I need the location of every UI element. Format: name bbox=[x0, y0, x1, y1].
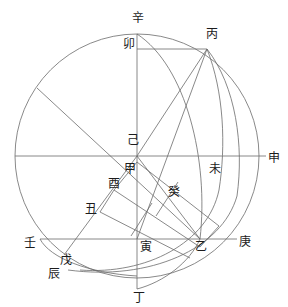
label-wu: 戊 bbox=[60, 254, 72, 266]
band2-cap-left bbox=[100, 190, 114, 212]
arc-middle bbox=[80, 49, 223, 271]
diagram-canvas: 辛 卯 丙 己 甲 酉 丑 癸 未 申 壬 戊 辰 寅 乙 庚 丁 bbox=[0, 0, 288, 307]
label-geng: 庚 bbox=[239, 236, 251, 248]
label-mao: 卯 bbox=[123, 38, 135, 50]
band-edge-lower bbox=[114, 190, 200, 247]
label-xin: 辛 bbox=[132, 12, 144, 24]
label-ji: 己 bbox=[127, 134, 139, 146]
label-yin: 寅 bbox=[140, 241, 152, 253]
label-yi: 乙 bbox=[195, 241, 207, 253]
label-gui: 癸 bbox=[168, 186, 180, 198]
label-chen: 辰 bbox=[48, 268, 60, 280]
label-wei: 未 bbox=[209, 163, 221, 175]
label-bing: 丙 bbox=[206, 28, 218, 40]
label-you: 酉 bbox=[108, 178, 120, 190]
label-ding: 丁 bbox=[133, 292, 145, 304]
label-chou: 丑 bbox=[85, 203, 97, 215]
label-jia: 甲 bbox=[124, 163, 136, 175]
label-shen: 申 bbox=[268, 152, 280, 164]
oblique-diameter-line bbox=[37, 88, 200, 239]
label-ren: 壬 bbox=[24, 237, 36, 249]
chord-bing-center bbox=[137, 49, 207, 156]
figure-svg bbox=[0, 0, 288, 307]
